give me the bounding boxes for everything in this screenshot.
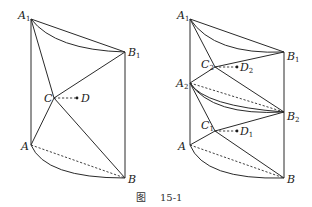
edge-CA: [31, 98, 54, 145]
point-D: [76, 97, 79, 100]
label-B2: B2: [286, 110, 300, 124]
label-A: A: [177, 140, 186, 153]
label-A: A: [20, 140, 29, 153]
edge-C1A: [190, 131, 215, 145]
label-B: B: [127, 173, 136, 186]
figure-caption-number: 15-1: [160, 192, 182, 203]
edge-B1C2: [215, 52, 284, 67]
edge-AB-hidden: [190, 145, 284, 178]
edge-A1B1: [31, 19, 125, 52]
label-A1: A1: [17, 9, 30, 23]
label-A2: A2: [175, 77, 188, 91]
label-B1: B1: [286, 50, 300, 64]
label-D2: D2: [239, 61, 253, 75]
left-figure: A1 B1 C D A B: [17, 9, 141, 186]
edge-B2C1: [215, 112, 284, 131]
label-D: D: [80, 92, 90, 105]
figure-15-1: A1 B1 C D A B A1: [0, 0, 312, 207]
right-figure: A1 B1 C2 D2 A2 B2 C1 D1 A B: [175, 9, 300, 186]
label-B: B: [286, 173, 295, 186]
figure-caption-prefix: 图: [136, 192, 146, 203]
label-B1: B1: [127, 46, 141, 60]
point-D2: [236, 66, 239, 69]
point-D1: [236, 130, 239, 133]
label-A1: A1: [176, 9, 189, 23]
label-C1: C1: [201, 119, 214, 133]
label-C: C: [44, 92, 53, 105]
label-D1: D1: [239, 125, 253, 139]
